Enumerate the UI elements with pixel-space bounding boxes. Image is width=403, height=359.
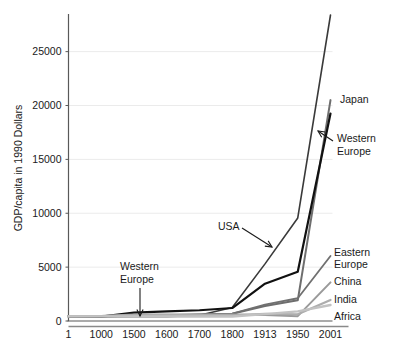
x-tick-1500: 1500 (122, 328, 146, 340)
x-tick-2001: 2001 (319, 328, 343, 340)
series-label-japan: Japan (340, 93, 369, 105)
annotation-group: USAWesternEuropeWesternEurope (120, 131, 376, 316)
annotation-usa-line-0: USA (218, 220, 240, 232)
x-tick-1700: 1700 (188, 328, 212, 340)
y-axis-title-text: GDP/capita in 1990 Dollars (12, 105, 24, 232)
chart-canvas: 0500010000150002000025000 11000150016001… (0, 0, 403, 359)
y-tick-25000: 25000 (32, 45, 61, 57)
y-tick-labels: 0500010000150002000025000 (32, 45, 68, 326)
x-tick-1913: 1913 (253, 328, 277, 340)
y-tick-20000: 20000 (32, 99, 61, 111)
series-inline-labels: JapanEasternEuropeChinaIndiaAfrica (334, 93, 370, 322)
gridline-group (69, 52, 333, 267)
x-tick-1: 1 (66, 328, 72, 340)
series-label-china: China (334, 275, 362, 287)
series-lines-group (69, 15, 331, 317)
series-line-japan (69, 100, 331, 317)
gdp-per-capita-line-chart: 0500010000150002000025000 11000150016001… (0, 0, 403, 359)
y-tick-10000: 10000 (32, 207, 61, 219)
y-tick-0: 0 (56, 315, 62, 327)
series-label-europe: Europe (334, 258, 368, 270)
annotation-western-europe-line-1: Europe (337, 145, 371, 157)
annotation-western-europe-line-0: Western (120, 260, 159, 272)
x-tick-labels: 110001500160017001800191319502001 (66, 328, 343, 340)
x-tick-1950: 1950 (286, 328, 310, 340)
series-label-africa: Africa (334, 310, 361, 322)
annotation-western-europe-line-1: Europe (120, 273, 154, 285)
axis-group (68, 14, 349, 327)
series-label-eastern: Eastern (334, 246, 370, 258)
y-tick-5000: 5000 (38, 261, 62, 273)
y-axis-title: GDP/capita in 1990 Dollars (12, 105, 24, 232)
x-tick-1600: 1600 (155, 328, 179, 340)
x-tick-1800: 1800 (221, 328, 245, 340)
annotation-usa-arrow-shaft (242, 228, 272, 247)
annotation-western-europe-line-0: Western (337, 132, 376, 144)
series-line-eastern-europe (69, 256, 331, 317)
figure-caption-partial (4, 349, 8, 358)
series-label-india: India (334, 293, 357, 305)
x-tick-1000: 1000 (90, 328, 114, 340)
y-tick-15000: 15000 (32, 153, 61, 165)
annotation-usa-arrow-head (265, 241, 272, 247)
series-line-western-europe (69, 114, 331, 317)
series-line-usa (69, 15, 331, 317)
